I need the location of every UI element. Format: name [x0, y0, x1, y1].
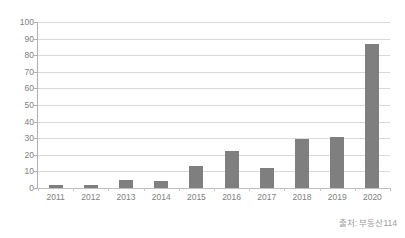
bar-2015	[189, 166, 203, 188]
bar-2016	[225, 151, 239, 188]
bar-2014	[154, 181, 168, 188]
x-tick-mark-5	[214, 188, 215, 191]
bar-2017	[260, 168, 274, 188]
x-tick-mark-9	[355, 188, 356, 191]
x-tick-mark-6	[249, 188, 250, 191]
y-tick-label-10: 10	[0, 167, 34, 176]
bar-2019	[330, 137, 344, 188]
x-tick-label-2015: 2015	[179, 192, 213, 202]
x-tick-label-2020: 2020	[355, 192, 389, 202]
bar-chart-figure: 0102030405060708090100 20112012201320142…	[0, 0, 405, 238]
y-tick-label-60: 60	[0, 84, 34, 93]
x-tick-mark-0	[38, 188, 39, 191]
chart-title	[0, 0, 405, 1]
y-tick-label-30: 30	[0, 134, 34, 143]
source-note: 출처: 부동산114	[339, 216, 397, 228]
y-axis-labels: 0102030405060708090100	[0, 22, 34, 189]
x-tick-label-2014: 2014	[144, 192, 178, 202]
y-tick-label-20: 20	[0, 151, 34, 160]
x-tick-label-2018: 2018	[285, 192, 319, 202]
bar-2012	[84, 185, 98, 188]
bar-2020	[365, 44, 379, 188]
x-tick-label-2017: 2017	[250, 192, 284, 202]
gridline-40	[38, 122, 390, 123]
x-tick-mark-4	[179, 188, 180, 191]
x-tick-mark-7	[284, 188, 285, 191]
x-tick-mark-1	[73, 188, 74, 191]
y-tick-label-90: 90	[0, 35, 34, 44]
gridline-60	[38, 88, 390, 89]
bar-2018	[295, 139, 309, 188]
x-tick-mark-8	[320, 188, 321, 191]
x-axis-labels: 2011201220132014201520162017201820192020	[38, 192, 390, 206]
gridline-100	[38, 22, 390, 23]
y-tick-label-100: 100	[0, 18, 34, 27]
x-tick-label-2019: 2019	[320, 192, 354, 202]
y-tick-label-0: 0	[0, 184, 34, 193]
x-tick-label-2016: 2016	[215, 192, 249, 202]
x-tick-mark-3	[144, 188, 145, 191]
x-tick-label-2011: 2011	[39, 192, 73, 202]
gridline-70	[38, 72, 390, 73]
x-tick-mark-2	[108, 188, 109, 191]
gridline-50	[38, 105, 390, 106]
plot-area	[38, 22, 390, 188]
y-tick-label-40: 40	[0, 118, 34, 127]
gridline-90	[38, 39, 390, 40]
x-tick-mark-end	[390, 188, 391, 191]
y-tick-label-80: 80	[0, 51, 34, 60]
bar-2011	[49, 185, 63, 188]
y-tick-label-70: 70	[0, 68, 34, 77]
x-tick-label-2013: 2013	[109, 192, 143, 202]
gridline-80	[38, 55, 390, 56]
x-tick-label-2012: 2012	[74, 192, 108, 202]
bar-2013	[119, 180, 133, 188]
y-tick-label-50: 50	[0, 101, 34, 110]
